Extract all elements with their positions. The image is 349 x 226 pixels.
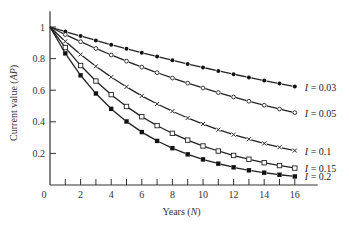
series-line-segment [67, 55, 79, 73]
marker-filled-circle [293, 85, 297, 89]
x-axis-title: Years (N) [162, 206, 200, 218]
x-tick-label: 0 [42, 189, 47, 200]
series-line-segment [144, 53, 154, 56]
marker-filled-circle [155, 55, 159, 59]
marker-open-square [63, 45, 67, 49]
axes [50, 11, 318, 185]
marker-open-circle [171, 76, 175, 80]
series-line-segment [205, 160, 215, 163]
marker-filled-square [78, 73, 82, 77]
y-axis-title: Current value (AP) [8, 65, 20, 141]
marker-filled-square [293, 174, 297, 178]
series-line-segment [160, 57, 170, 60]
series-line-segment [144, 97, 155, 103]
marker-open-circle [94, 47, 98, 51]
series-line-segment [83, 56, 94, 65]
series-label: I = 0.03 [304, 82, 336, 93]
marker-open-square [216, 149, 220, 153]
marker-filled-circle [125, 47, 129, 51]
series-line-segment [159, 127, 170, 132]
x-tick-label: 10 [198, 189, 208, 200]
marker-open-square [231, 153, 235, 157]
marker-open-square [293, 166, 297, 170]
marker-filled-square [155, 139, 159, 143]
series-line-segment [175, 134, 186, 139]
series-line-segment [175, 61, 185, 63]
y-tick-label: 0.4 [33, 116, 46, 127]
series-line-segment [82, 67, 94, 79]
marker-filled-square [231, 165, 235, 169]
series-line-segment [221, 130, 232, 133]
series-line-segment [205, 68, 215, 70]
series-line-segment [205, 125, 216, 129]
marker-filled-square [94, 91, 98, 95]
series-line-segment [236, 98, 246, 101]
series-line-segment [113, 96, 124, 105]
marker-filled-circle [262, 79, 266, 83]
series-line-segment [129, 123, 140, 131]
marker-filled-square [201, 157, 205, 161]
marker-open-circle [125, 59, 129, 63]
marker-filled-square [216, 161, 220, 165]
series-line-segment [221, 71, 231, 73]
x-tick-label: 6 [139, 189, 144, 200]
series-line-segment [267, 144, 277, 147]
marker-open-square [109, 92, 113, 96]
marker-open-square [155, 123, 159, 127]
series-line-segment [190, 65, 200, 67]
marker-open-square [94, 79, 98, 83]
marker-open-circle [262, 103, 266, 107]
x-tick-label: 2 [78, 189, 83, 200]
marker-filled-square [140, 130, 144, 134]
marker-filled-square [262, 170, 266, 174]
series-line-segment [251, 171, 261, 173]
x-tick-label: 12 [229, 189, 239, 200]
series-line-segment [205, 147, 216, 150]
marker-filled-circle [201, 65, 205, 69]
series-line-segment [82, 77, 94, 91]
marker-filled-circle [140, 51, 144, 55]
series-line-segment [129, 62, 140, 66]
marker-filled-circle [94, 38, 98, 42]
series-line-segment [221, 152, 231, 155]
marker-filled-circle [278, 82, 282, 86]
marker-open-circle [155, 71, 159, 75]
marker-open-square [277, 163, 281, 167]
series-line-segment [114, 45, 124, 48]
marker-filled-square [277, 173, 281, 177]
series-line-segment [129, 49, 139, 52]
series-line-segment [236, 135, 247, 138]
marker-open-circle [140, 65, 144, 69]
series-line-segment [144, 118, 155, 124]
series-layer [50, 27, 297, 179]
series-line-segment [251, 140, 261, 143]
marker-open-circle [232, 95, 236, 99]
marker-filled-square [247, 168, 251, 172]
marker-filled-square [63, 51, 67, 55]
marker-open-square [186, 138, 190, 142]
series-line-segment [175, 79, 186, 82]
series-label: I = 0.2 [304, 171, 331, 182]
series-line-segment [221, 164, 231, 166]
marker-open-circle [79, 40, 83, 44]
y-tick-label: 0.8 [33, 53, 46, 64]
y-tick-label: 0.2 [33, 148, 46, 159]
series-line-segment [129, 88, 140, 94]
marker-open-circle [201, 86, 205, 90]
marker-open-square [262, 161, 266, 165]
series-line-segment [144, 133, 155, 139]
series-line-segment [282, 175, 292, 176]
marker-open-circle [247, 99, 251, 103]
marker-filled-circle [247, 75, 251, 79]
series-line-segment [205, 89, 216, 92]
series-line-segment [113, 78, 124, 85]
series-line-segment [267, 106, 277, 109]
series-line-segment [267, 173, 277, 174]
marker-filled-circle [109, 43, 113, 47]
marker-open-circle [278, 107, 282, 111]
series-line-segment [98, 41, 108, 44]
marker-open-square [170, 131, 174, 135]
series-line-segment [251, 160, 261, 162]
y-tick-label: 0.6 [33, 85, 46, 96]
series-line-segment [282, 110, 292, 112]
